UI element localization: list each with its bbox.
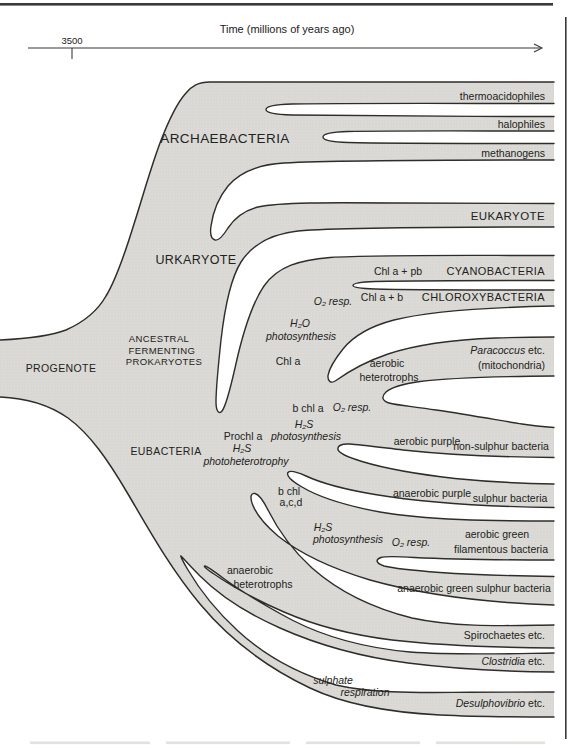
label-aerobic-heterotrophs-line1: aerobic xyxy=(370,358,404,369)
label-chl-a: Chl a xyxy=(276,356,301,367)
label-progenote: PROGENOTE xyxy=(26,363,97,374)
label-thermoacidophiles: thermoacidophiles xyxy=(460,91,545,102)
label-photoheterotrophy: photoheterotrophy xyxy=(203,456,288,467)
label-halophiles: halophiles xyxy=(498,119,545,130)
label-aerobic-purple: aerobic purple xyxy=(394,436,461,447)
label-anaerobic-heterotrophs-line2: heterotrophs xyxy=(234,579,293,590)
label-desulphovibrio: Desulphovibrio etc. xyxy=(456,698,545,709)
label-methanogens: methanogens xyxy=(481,148,545,159)
label-photosynthesis-purple: photosynthesis xyxy=(271,431,341,442)
label-acd: a,c,d xyxy=(280,497,303,508)
label-sulphur-bacteria: sulphur bacteria xyxy=(473,493,548,504)
label-o2-resp-purple: O₂ resp. xyxy=(333,402,371,413)
label-spirochaetes: Spirochaetes etc. xyxy=(464,630,545,641)
label-o2-resp-green: O₂ resp. xyxy=(392,537,430,548)
label-sulphate: sulphate xyxy=(313,675,353,686)
gap-thermoacidophiles-halophiles xyxy=(266,103,554,116)
label-ancestral-line1: ANCESTRAL xyxy=(129,334,190,344)
label-mitochondria: (mitochondria) xyxy=(478,360,545,371)
label-clostridia: Clostridia etc. xyxy=(481,656,545,667)
label-h2s-prochl: H₂S xyxy=(233,443,252,454)
label-anaerobic-purple: anaerobic purple xyxy=(393,488,471,499)
label-photosynthesis-green: photosynthesis xyxy=(313,534,383,545)
label-aerobic-green: aerobic green xyxy=(465,529,529,540)
label-chl-a-pb: Chl a + pb xyxy=(374,266,422,277)
label-prochl-a: Prochl a xyxy=(224,431,263,442)
label-paracoccus: Paracoccus etc. xyxy=(470,345,545,356)
faint-caption-remnant xyxy=(30,742,545,745)
label-ancestral-line2: FERMENTING xyxy=(129,346,196,356)
label-respiration: respiration xyxy=(340,687,389,698)
label-ancestral-line3: PROKARYOTES xyxy=(126,357,203,367)
time-axis-label: Time (millions of years ago) xyxy=(220,24,355,36)
label-urkaryote: URKARYOTE xyxy=(155,254,236,268)
label-filamentous-bacteria: filamentous bacteria xyxy=(454,544,548,555)
gap-halophiles-methanogens xyxy=(323,131,554,144)
label-chloroxybacteria: CHLOROXYBACTERIA xyxy=(422,292,545,304)
label-eukaryote: EUKARYOTE xyxy=(471,210,545,222)
label-h2s-purple: H₂S xyxy=(295,419,314,430)
label-h2o: H₂O xyxy=(290,318,310,329)
label-o2-resp-cyano: O₂ resp. xyxy=(314,296,352,307)
top-rule xyxy=(0,3,553,6)
label-b-chl-a: b chl a xyxy=(293,403,324,414)
figure-page: Time (millions of years ago) 3500 ARCHAE… xyxy=(0,0,572,747)
label-photosynthesis-h2o: photosynthesis xyxy=(266,331,336,342)
label-anaerobic-green-sulphur: anaerobic green sulphur bacteria xyxy=(397,583,551,594)
label-aerobic-heterotrophs-line2: heterotrophs xyxy=(360,372,419,383)
label-archaebacteria: ARCHAEBACTERIA xyxy=(160,132,289,147)
right-margin-rule xyxy=(565,17,567,739)
axis-tick-label-3500: 3500 xyxy=(61,36,82,46)
label-eubacteria: EUBACTERIA xyxy=(130,446,201,457)
label-cyanobacteria: CYANOBACTERIA xyxy=(446,266,545,278)
label-chl-a-b: Chl a + b xyxy=(361,292,403,303)
label-anaerobic-heterotrophs-line1: anaerobic xyxy=(227,565,273,576)
gap-cyanobacteria-chloroxybacteria xyxy=(353,281,554,291)
label-non-sulphur-bacteria: non-sulphur bacteria xyxy=(453,441,549,452)
time-axis xyxy=(28,44,542,59)
label-h2s-green: H₂S xyxy=(314,522,333,533)
